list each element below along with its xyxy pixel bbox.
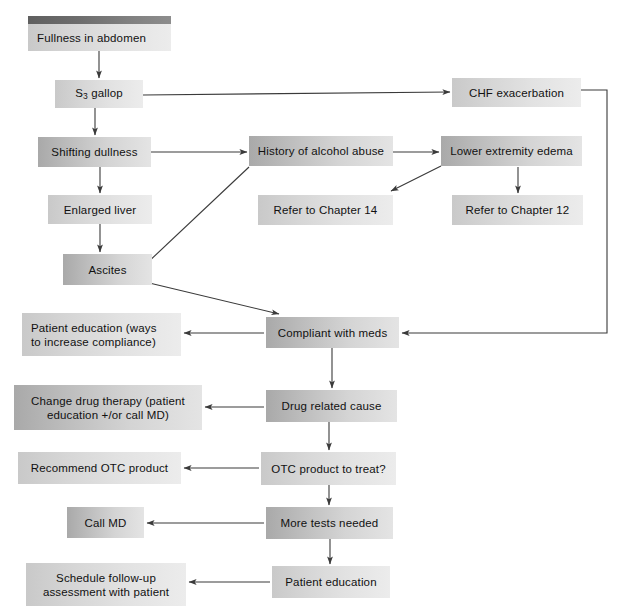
node-shifting[interactable]: Shifting dullness <box>38 137 151 167</box>
flowchart-canvas: Fullness in abdomenS3 gallopCHF exacerba… <box>0 0 625 613</box>
edge-s3gallop-to-chf <box>143 92 450 95</box>
node-compliant[interactable]: Compliant with meds <box>266 317 399 348</box>
node-patedu1[interactable]: Patient education (ways to increase comp… <box>22 313 181 356</box>
node-label-chapter12: Refer to Chapter 12 <box>466 203 570 217</box>
node-label-enlarged: Enlarged liver <box>64 203 136 217</box>
edge-history-to-ascites <box>145 167 249 265</box>
node-label-fullness: Fullness in abdomen <box>37 31 146 45</box>
node-otctreat[interactable]: OTC product to treat? <box>261 452 396 485</box>
node-label-changedrug: Change drug therapy (patient education +… <box>31 394 185 422</box>
node-chf[interactable]: CHF exacerbation <box>452 78 581 107</box>
node-history[interactable]: History of alcohol abuse <box>249 136 393 166</box>
node-patedu2[interactable]: Patient education <box>272 566 390 598</box>
node-recotc[interactable]: Recommend OTC product <box>18 452 181 484</box>
node-fullness[interactable]: Fullness in abdomen <box>28 24 171 51</box>
edge-ascites-to-compliant <box>141 281 279 314</box>
node-ascites[interactable]: Ascites <box>63 254 152 285</box>
node-label-otctreat: OTC product to treat? <box>271 462 385 476</box>
edge-edema-to-chapter14 <box>391 166 441 191</box>
node-changedrug[interactable]: Change drug therapy (patient education +… <box>14 385 202 430</box>
node-label-callmd: Call MD <box>85 516 127 530</box>
node-label-history: History of alcohol abuse <box>258 144 384 158</box>
node-label-drugcause: Drug related cause <box>282 399 382 413</box>
node-label-patedu1: Patient education (ways to increase comp… <box>31 321 157 349</box>
node-label-edema: Lower extremity edema <box>450 144 573 158</box>
node-chapter14[interactable]: Refer to Chapter 14 <box>258 195 393 225</box>
node-drugcause[interactable]: Drug related cause <box>266 390 397 422</box>
node-moretests[interactable]: More tests needed <box>266 507 393 539</box>
node-label-moretests: More tests needed <box>281 516 379 530</box>
node-label-compliant: Compliant with meds <box>278 326 388 340</box>
node-chapter12[interactable]: Refer to Chapter 12 <box>452 195 583 225</box>
node-label-chf: CHF exacerbation <box>469 86 564 100</box>
node-schedule[interactable]: Schedule follow-up assessment with patie… <box>26 563 186 606</box>
node-callmd[interactable]: Call MD <box>67 507 144 538</box>
node-label-schedule: Schedule follow-up assessment with patie… <box>43 571 169 599</box>
node-label-shifting: Shifting dullness <box>51 145 137 159</box>
node-s3gallop[interactable]: S3 gallop <box>55 80 143 108</box>
subscript-3: 3 <box>83 91 88 101</box>
node-header-bar-fullness <box>28 16 171 24</box>
node-label-ascites: Ascites <box>88 263 126 277</box>
node-enlarged[interactable]: Enlarged liver <box>48 195 152 224</box>
node-label-chapter14: Refer to Chapter 14 <box>274 203 378 217</box>
node-edema[interactable]: Lower extremity edema <box>441 136 582 166</box>
node-label-s3gallop: S3 gallop <box>75 86 123 103</box>
node-label-patedu2: Patient education <box>285 575 376 589</box>
node-label-recotc: Recommend OTC product <box>31 461 168 475</box>
